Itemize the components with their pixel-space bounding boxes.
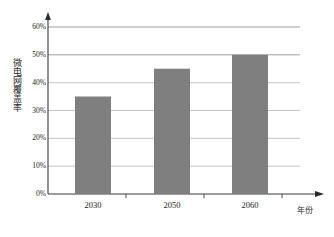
bar-chart-figure: 微电网覆盖率 0% 10% 20% 30% 40% 50% 60% — [0, 0, 334, 237]
x-tick-label-2060: 2060 — [220, 200, 280, 210]
bar-2050[interactable] — [154, 69, 190, 194]
x-tick-label-2050: 2050 — [142, 200, 202, 210]
x-axis-ticks — [126, 194, 282, 198]
y-axis-line — [45, 12, 51, 194]
bar-2060[interactable] — [232, 55, 268, 194]
bar-2030[interactable] — [75, 97, 111, 195]
bars — [75, 55, 268, 194]
x-tick-label-2030: 2030 — [63, 200, 123, 210]
x-axis-title: 年份 — [297, 206, 313, 216]
